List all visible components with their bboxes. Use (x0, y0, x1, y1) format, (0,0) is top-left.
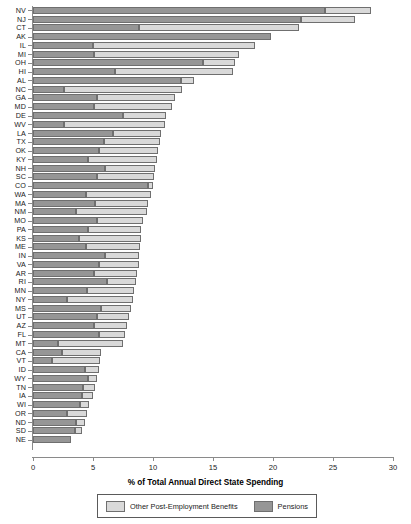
y-axis-label: MO (0, 217, 26, 224)
bar-segment-pensions (33, 349, 62, 356)
bar-row (33, 112, 393, 119)
bar-segment-pensions (33, 261, 99, 268)
bar-segment-opeb (107, 278, 136, 285)
bar-segment-opeb (64, 121, 165, 128)
bar-segment-opeb (76, 208, 147, 215)
bar-row (33, 278, 393, 285)
y-axis-label: IN (0, 252, 26, 259)
bar-segment-opeb (97, 217, 144, 224)
y-axis-label: ME (0, 243, 26, 250)
x-axis-tick (393, 457, 394, 461)
x-axis-tick (153, 457, 154, 461)
y-axis-label: MD (0, 103, 26, 110)
bar-row (33, 401, 393, 408)
bar-segment-pensions (33, 182, 148, 189)
bar-segment-opeb (301, 16, 355, 23)
bar-segment-opeb (115, 68, 234, 75)
bar-segment-opeb (97, 173, 155, 180)
bar-segment-opeb (67, 296, 133, 303)
y-axis-label: NC (0, 86, 26, 93)
legend-item-opeb: Other Post-Employment Benefits (106, 501, 238, 512)
chart-container: NVNJCTAKILMIOHHIALNCGAMDDEWVLATXOKKYNHSC… (0, 0, 411, 524)
bar-segment-opeb (99, 261, 139, 268)
bar-row (33, 270, 393, 277)
bar-row (33, 252, 393, 259)
bar-segment-pensions (33, 208, 76, 215)
bar-row (33, 7, 393, 14)
y-axis-label: CT (0, 24, 26, 31)
bar-row (33, 287, 393, 294)
y-axis-label: NH (0, 165, 26, 172)
bar-row (33, 138, 393, 145)
bar-segment-pensions (33, 375, 88, 382)
bar-segment-opeb (97, 94, 175, 101)
bar-row (33, 59, 393, 66)
y-axis-label: WY (0, 375, 26, 382)
bar-segment-pensions (33, 427, 75, 434)
bar-segment-opeb (123, 112, 166, 119)
bar-segment-pensions (33, 322, 94, 329)
bar-segment-opeb (87, 287, 134, 294)
bar-segment-pensions (33, 296, 67, 303)
bar-row (33, 121, 393, 128)
bar-segment-pensions (33, 59, 203, 66)
y-axis-label: MA (0, 200, 26, 207)
bar-segment-pensions (33, 243, 86, 250)
x-axis-tick (333, 457, 334, 461)
bar-row (33, 24, 393, 31)
y-axis-label: SC (0, 173, 26, 180)
bar-segment-pensions (33, 401, 80, 408)
bar-segment-pensions (33, 42, 93, 49)
y-axis-label: AZ (0, 322, 26, 329)
bar-segment-pensions (33, 331, 99, 338)
y-axis-label: FL (0, 331, 26, 338)
bar-segment-pensions (33, 191, 86, 198)
y-axis-label: NY (0, 296, 26, 303)
bar-segment-opeb (139, 24, 300, 31)
bar-row (33, 235, 393, 242)
bar-segment-opeb (75, 427, 82, 434)
bar-segment-pensions (33, 86, 64, 93)
y-axis-label: IA (0, 392, 26, 399)
bar-segment-opeb (94, 322, 126, 329)
y-axis-label: OR (0, 410, 26, 417)
y-axis-label: OK (0, 147, 26, 154)
bar-segment-pensions (33, 410, 67, 417)
y-axis-label: UT (0, 313, 26, 320)
bar-row (33, 226, 393, 233)
plot-area (33, 6, 393, 444)
bar-row (33, 200, 393, 207)
bar-segment-pensions (33, 138, 104, 145)
bar-row (33, 331, 393, 338)
y-axis-label: MT (0, 340, 26, 347)
bar-segment-opeb (105, 252, 139, 259)
y-axis-label: CA (0, 349, 26, 356)
legend-label-opeb: Other Post-Employment Benefits (130, 502, 238, 511)
bar-row (33, 427, 393, 434)
bar-segment-opeb (325, 7, 372, 14)
bar-segment-pensions (33, 366, 85, 373)
bar-segment-pensions (33, 7, 325, 14)
bar-segment-opeb (148, 182, 153, 189)
bar-segment-opeb (93, 42, 255, 49)
bar-segment-opeb (82, 392, 93, 399)
y-axis-label: PA (0, 226, 26, 233)
y-axis-label: TN (0, 384, 26, 391)
x-axis-tick-label: 30 (378, 463, 408, 472)
x-axis-tick (93, 457, 94, 461)
y-axis-label: NM (0, 208, 26, 215)
y-axis-label: ND (0, 419, 26, 426)
bar-row (33, 305, 393, 312)
x-axis-title: % of Total Annual Direct State Spending (0, 478, 411, 487)
y-axis-label: OH (0, 59, 26, 66)
bar-segment-pensions (33, 200, 95, 207)
y-axis-label: VA (0, 261, 26, 268)
bar-row (33, 103, 393, 110)
bar-segment-pensions (33, 103, 94, 110)
bar-row (33, 436, 393, 443)
bar-row (33, 94, 393, 101)
bar-row (33, 313, 393, 320)
bar-segment-opeb (79, 235, 141, 242)
bar-segment-pensions (33, 235, 79, 242)
x-axis-tick (33, 457, 34, 461)
